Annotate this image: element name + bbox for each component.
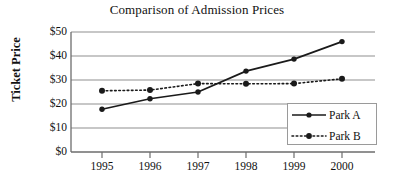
- data-point: [243, 68, 248, 73]
- chart-legend: Park A Park B: [287, 103, 377, 145]
- legend-swatch-park-b: [291, 129, 327, 143]
- data-point: [339, 76, 345, 82]
- x-tick-label: 1995: [78, 160, 126, 172]
- x-tick-label: 1997: [174, 160, 222, 172]
- chart-container: Comparison of Admission Prices Ticket Pr…: [0, 0, 394, 188]
- x-tick-label: 1999: [270, 160, 318, 172]
- data-point: [291, 56, 296, 61]
- data-point: [147, 96, 152, 101]
- data-point: [99, 88, 105, 94]
- data-point: [339, 39, 344, 44]
- x-tick-label: 1996: [126, 160, 174, 172]
- x-axis-ticks: [102, 152, 342, 158]
- legend-label-park-a: Park A: [329, 109, 361, 121]
- data-point: [195, 81, 201, 87]
- legend-item-park-b: Park B: [288, 125, 378, 146]
- legend-label-park-b: Park B: [329, 130, 361, 142]
- series-park-a: [99, 39, 344, 112]
- series-park-b: [99, 76, 345, 94]
- data-point: [243, 81, 249, 87]
- data-point: [195, 89, 200, 94]
- data-point: [99, 107, 104, 112]
- data-point: [147, 87, 153, 93]
- x-tick-label: 2000: [318, 160, 366, 172]
- legend-swatch-park-a: [291, 108, 327, 122]
- data-point: [291, 81, 297, 87]
- x-tick-label: 1998: [222, 160, 270, 172]
- legend-item-park-a: Park A: [288, 104, 378, 125]
